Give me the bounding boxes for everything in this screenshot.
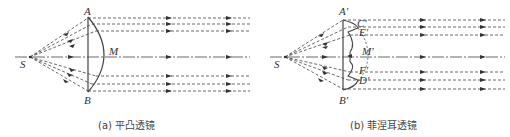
caption-b: (b) 菲涅耳透镜	[350, 117, 417, 132]
label-M: M	[108, 45, 119, 57]
label-B-prime: B'	[339, 94, 349, 106]
label-A-prime: A'	[338, 5, 349, 17]
fresnel-lower-facets	[343, 62, 358, 90]
rays-right	[285, 20, 505, 89]
label-A: A	[83, 5, 91, 17]
fresnel-upper-facets	[343, 20, 358, 52]
label-E-prime: E'	[358, 26, 369, 38]
panel-a-plano-convex	[15, 16, 250, 93]
caption-a: (a) 平凸透镜	[98, 117, 155, 132]
panel-b-fresnel	[270, 18, 505, 91]
label-S: S	[20, 58, 26, 70]
lens-diagram: S A B M	[0, 0, 510, 137]
label-S-b: S	[274, 58, 280, 70]
label-B: B	[84, 94, 91, 106]
label-D-prime: D'	[358, 74, 370, 86]
label-M-prime: M'	[361, 45, 374, 57]
lens-convex-face	[88, 17, 104, 92]
rays-left	[30, 18, 250, 91]
